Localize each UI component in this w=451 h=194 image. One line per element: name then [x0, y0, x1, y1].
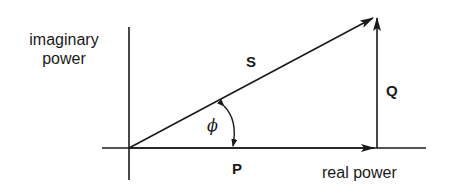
s-label: S — [246, 53, 256, 70]
p-label: P — [232, 160, 242, 177]
s-vector — [129, 18, 373, 148]
angle-arc — [224, 106, 234, 146]
y-axis-label-line1: imaginary — [14, 30, 114, 49]
y-axis-label: imaginary power — [14, 30, 114, 68]
x-axis-label: real power — [322, 163, 397, 182]
y-axis-label-line2: power — [14, 49, 114, 68]
phi-angle-label: ϕ — [207, 116, 218, 135]
q-label: Q — [386, 82, 398, 99]
